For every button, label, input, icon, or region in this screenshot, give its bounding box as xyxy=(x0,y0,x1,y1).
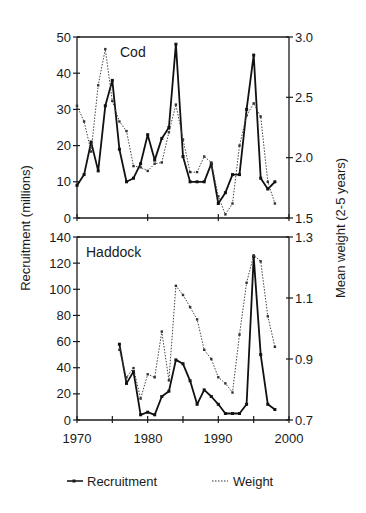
weight-data-point xyxy=(168,379,170,381)
weight-data-point xyxy=(154,163,156,165)
y-tick-label: 20 xyxy=(57,386,71,401)
recruitment-data-point xyxy=(83,173,86,176)
weight-data-point xyxy=(118,120,120,122)
weight-data-point xyxy=(253,254,255,256)
weight-data-point xyxy=(175,103,177,105)
weight-data-point xyxy=(132,367,134,369)
weight-data-point xyxy=(224,382,226,384)
recruitment-data-point xyxy=(160,395,163,398)
weight-data-point xyxy=(118,349,120,351)
recruitment-data-point xyxy=(153,159,156,162)
weight-data-point xyxy=(125,376,127,378)
x-tick-label: 1990 xyxy=(204,431,233,446)
recruitment-data-point xyxy=(245,108,248,111)
y-tick-label: 10 xyxy=(57,174,71,189)
recruitment-data-point xyxy=(139,413,142,416)
recruitment-data-point xyxy=(174,43,177,46)
recruitment-data-point xyxy=(238,412,241,415)
y-tick-label: 50 xyxy=(57,30,71,45)
weight-data-point xyxy=(238,144,240,146)
weight-data-point xyxy=(125,130,127,132)
recruitment-data-point xyxy=(266,403,269,406)
legend-label-weight: Weight xyxy=(233,474,274,489)
recruitment-data-point xyxy=(182,362,185,365)
recruitment-data-point xyxy=(224,191,227,194)
recruitment-data-point xyxy=(104,104,107,107)
recruitment-data-point xyxy=(196,403,199,406)
weight-data-point xyxy=(260,115,262,117)
recruitment-data-point xyxy=(259,353,262,356)
y-tick-label: 140 xyxy=(49,230,71,245)
weight-data-point xyxy=(231,391,233,393)
recruitment-data-point xyxy=(231,412,234,415)
recruitment-data-point xyxy=(97,169,100,172)
weight-data-point xyxy=(274,346,276,348)
weight-data-point xyxy=(245,114,247,116)
y2-tick-label: 0.9 xyxy=(295,352,313,367)
weight-data-point xyxy=(210,161,212,163)
recruitment-data-point xyxy=(238,173,241,176)
y2-tick-label: 1.5 xyxy=(295,211,313,226)
y2-tick-label: 3.0 xyxy=(295,30,313,45)
recruitment-data-point xyxy=(167,390,170,393)
y-tick-label: 80 xyxy=(57,308,71,323)
weight-series-line xyxy=(119,255,275,398)
weight-data-point xyxy=(267,181,269,183)
legend-item-weight: Weight xyxy=(212,474,274,489)
legend-label-recruitment: Recruitment xyxy=(87,474,157,489)
weight-data-point xyxy=(97,84,99,86)
recruitment-data-point xyxy=(210,395,213,398)
recruitment-data-point xyxy=(245,403,248,406)
y2-tick-label: 1.3 xyxy=(295,230,313,245)
weight-data-point xyxy=(210,358,212,360)
recruitment-data-point xyxy=(203,180,206,183)
recruitment-data-point xyxy=(146,133,149,136)
weight-data-point xyxy=(83,120,85,122)
x-tick-label: 2000 xyxy=(275,431,304,446)
y-tick-label: 40 xyxy=(57,66,71,81)
recruitment-data-point xyxy=(217,202,220,205)
y2-tick-label: 2.5 xyxy=(295,90,313,105)
weight-data-point xyxy=(139,166,141,168)
legend: Recruitment Weight xyxy=(67,474,274,489)
weight-data-point xyxy=(189,171,191,173)
weight-data-point xyxy=(217,195,219,197)
x-axis-tick-labels: 1970 1980 1990 2000 xyxy=(63,431,304,446)
weight-data-point xyxy=(203,349,205,351)
legend-item-recruitment: Recruitment xyxy=(67,474,157,489)
y2-tick-label: 0.7 xyxy=(295,413,313,428)
recruitment-data-point xyxy=(160,137,163,140)
weight-data-point xyxy=(104,48,106,50)
recruitment-data-point xyxy=(118,343,121,346)
cod-panel: 010203040501.52.02.53.0Cod xyxy=(57,30,314,226)
weight-data-point xyxy=(217,376,219,378)
weight-data-point xyxy=(196,318,198,320)
weight-data-point xyxy=(245,282,247,284)
recruitment-data-point xyxy=(273,408,276,411)
y2-tick-label: 2.0 xyxy=(295,150,313,165)
recruitment-data-point xyxy=(182,155,185,158)
weight-data-point xyxy=(111,100,113,102)
panel-title: Haddock xyxy=(86,244,142,260)
recruitment-data-point xyxy=(125,180,128,183)
weight-data-point xyxy=(238,333,240,335)
weight-data-point xyxy=(154,376,156,378)
recruitment-data-point xyxy=(189,180,192,183)
y-tick-label: 60 xyxy=(57,334,71,349)
recruitment-data-point xyxy=(252,54,255,57)
weight-data-point xyxy=(161,161,163,163)
recruitment-data-point xyxy=(118,148,121,151)
haddock-panel: 0204060801001201400.70.91.11.3Haddock xyxy=(49,230,313,428)
recruitment-data-point xyxy=(273,180,276,183)
recruitment-data-point xyxy=(153,413,156,416)
x-tick-label: 1980 xyxy=(134,431,163,446)
y-tick-label: 30 xyxy=(57,102,71,117)
recruitment-data-point xyxy=(224,412,227,415)
recruitment-data-point xyxy=(76,184,79,187)
weight-data-point xyxy=(253,102,255,104)
weight-data-point xyxy=(224,213,226,215)
dual-axis-chart-figure: Recruitment (millions) Mean weight (2-5 … xyxy=(0,0,366,513)
recruitment-data-point xyxy=(231,173,234,176)
weight-data-point xyxy=(196,171,198,173)
weight-data-point xyxy=(90,150,92,152)
